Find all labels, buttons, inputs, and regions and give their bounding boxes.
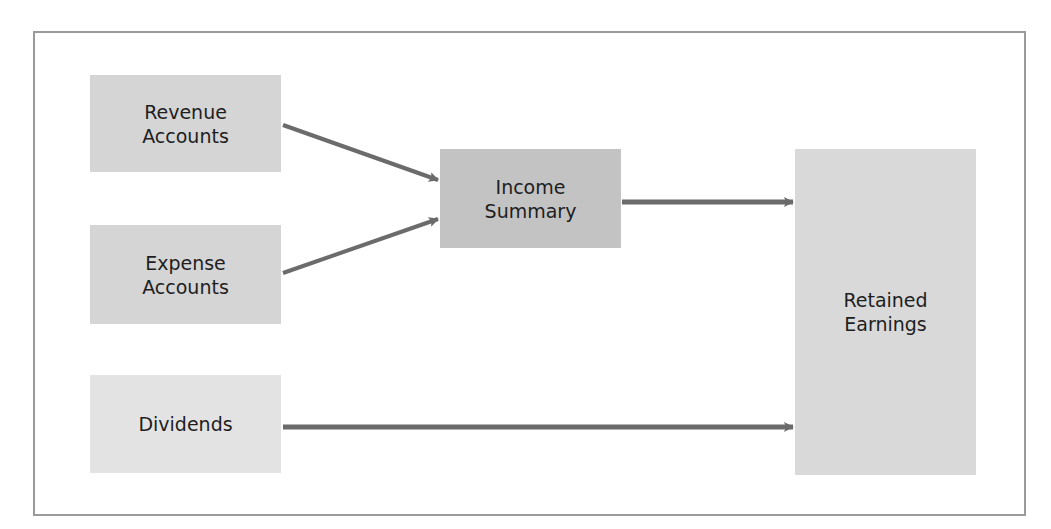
node-label: Summary (485, 199, 577, 223)
node-label: Revenue (142, 100, 229, 124)
expense-accounts-box: ExpenseAccounts (90, 225, 281, 324)
node-label: Expense (142, 251, 229, 275)
node-label: Earnings (843, 312, 927, 336)
node-label: Accounts (142, 124, 229, 148)
node-label: Dividends (138, 412, 232, 436)
retained-earnings-box: RetainedEarnings (795, 149, 976, 475)
arrow-expense-to-income-summary (283, 219, 438, 273)
node-label: Income (485, 175, 577, 199)
dividends-box: Dividends (90, 375, 281, 473)
node-label: Retained (843, 288, 927, 312)
revenue-accounts-box: RevenueAccounts (90, 75, 281, 172)
income-summary-box: IncomeSummary (440, 149, 621, 248)
arrow-revenue-to-income-summary (283, 125, 438, 180)
node-label: Accounts (142, 275, 229, 299)
